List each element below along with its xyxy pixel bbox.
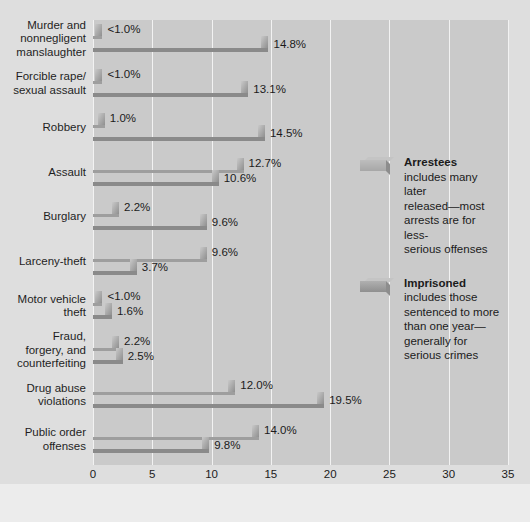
- bar-end-cap: [200, 247, 207, 259]
- bar-arrestees[interactable]: [93, 158, 244, 170]
- bar-shadow: [93, 449, 209, 453]
- category-label: Assault: [0, 166, 86, 180]
- bar-value-label: 14.5%: [270, 127, 303, 139]
- bar-arrestees[interactable]: [93, 247, 207, 259]
- legend-description-line: arrests are for less-: [404, 213, 500, 242]
- bar-end-cap: [200, 214, 207, 226]
- bar-arrestees[interactable]: [93, 291, 102, 303]
- bar-end-cap: [130, 259, 137, 271]
- category-label-line: forgery, and: [0, 344, 86, 358]
- bar-end-cap: [241, 81, 248, 93]
- category-label-line: manslaughter: [0, 46, 86, 60]
- legend-description-line: serious crimes: [404, 348, 500, 363]
- legend-swatch-face: [360, 160, 386, 171]
- chart-row: Drug abuseviolations12.0%19.5%: [0, 380, 530, 425]
- category-label-line: Burglary: [0, 210, 86, 224]
- bar-end-cap: [237, 158, 244, 170]
- bar-imprisoned[interactable]: [93, 81, 248, 93]
- bar-value-label: 2.2%: [124, 335, 150, 347]
- legend-swatch-side: [386, 281, 390, 296]
- bar-shadow: [93, 182, 219, 186]
- bar-imprisoned[interactable]: [93, 125, 265, 137]
- bar-shadow: [93, 137, 265, 141]
- legend-description-line: includes many later: [404, 170, 500, 199]
- bar-arrestees[interactable]: [93, 425, 259, 437]
- bar-value-label: 9.6%: [212, 246, 238, 258]
- bar-value-label: 3.7%: [142, 261, 168, 273]
- legend-swatch-side: [386, 160, 390, 175]
- category-label-line: Motor vehicle: [0, 293, 86, 307]
- chart-row: Murder andnonnegligentmanslaughter<1.0%1…: [0, 24, 530, 69]
- bar-value-label: 12.7%: [249, 157, 282, 169]
- bar-imprisoned[interactable]: [93, 348, 123, 360]
- bar-imprisoned[interactable]: [93, 392, 324, 404]
- bar-imprisoned[interactable]: [93, 170, 219, 182]
- bar-end-cap: [95, 291, 102, 303]
- bar-imprisoned[interactable]: [93, 437, 209, 449]
- legend-description-line: sentenced to more: [404, 305, 500, 320]
- bar-value-label: 2.5%: [128, 350, 154, 362]
- chart-page: Murder andnonnegligentmanslaughter<1.0%1…: [0, 0, 530, 522]
- footer-strip: [0, 484, 530, 522]
- bar-value-label: 2.2%: [124, 201, 150, 213]
- category-label: Robbery: [0, 121, 86, 135]
- chart-legend: Arresteesincludes many laterreleased—mos…: [360, 155, 500, 382]
- bar-end-cap: [261, 36, 268, 48]
- x-tick-35: 35: [502, 468, 515, 480]
- bar-end-cap: [112, 202, 119, 214]
- legend-description-line: generally for: [404, 334, 500, 349]
- category-label-line: counterfeiting: [0, 357, 86, 371]
- bar-value-label: 10.6%: [224, 172, 257, 184]
- bar-shadow: [93, 315, 112, 319]
- category-label-line: Fraud,: [0, 330, 86, 344]
- legend-item-imprisoned[interactable]: Imprisonedincludes thosesentenced to mor…: [360, 276, 500, 363]
- bar-shadow: [93, 226, 207, 230]
- category-label: Fraud,forgery, andcounterfeiting: [0, 330, 86, 371]
- bar-arrestees[interactable]: [93, 336, 119, 348]
- bar-value-label: 14.0%: [264, 424, 297, 436]
- bar-value-label: 13.1%: [253, 83, 286, 95]
- legend-title: Imprisoned: [404, 276, 500, 291]
- bar-imprisoned[interactable]: [93, 259, 137, 271]
- bar-value-label: 1.0%: [110, 112, 136, 124]
- bar-value-label: 12.0%: [240, 379, 273, 391]
- legend-item-arrestees[interactable]: Arresteesincludes many laterreleased—mos…: [360, 155, 500, 257]
- legend-text: Arresteesincludes many laterreleased—mos…: [404, 155, 500, 257]
- chart-row: Forcible rape/sexual assault<1.0%13.1%: [0, 69, 530, 114]
- bar-value-label: <1.0%: [107, 68, 140, 80]
- bar-arrestees[interactable]: [93, 69, 102, 81]
- bar-shadow: [93, 93, 248, 97]
- legend-description-line: released—most: [404, 199, 500, 214]
- bar-arrestees[interactable]: [93, 24, 102, 36]
- x-tick-5: 5: [149, 468, 155, 480]
- bar-shadow: [93, 404, 324, 408]
- bar-imprisoned[interactable]: [93, 36, 268, 48]
- bar-arrestees[interactable]: [93, 113, 105, 125]
- legend-text: Imprisonedincludes thosesentenced to mor…: [404, 276, 500, 363]
- bar-end-cap: [252, 425, 259, 437]
- bar-end-cap: [112, 336, 119, 348]
- category-label: Motor vehicletheft: [0, 293, 86, 320]
- legend-description-line: serious offenses: [404, 242, 500, 257]
- bar-end-cap: [116, 348, 123, 360]
- bar-arrestees[interactable]: [93, 202, 119, 214]
- bar-value-label: 9.6%: [212, 216, 238, 228]
- bar-arrestees[interactable]: [93, 380, 235, 392]
- bar-value-label: <1.0%: [107, 290, 140, 302]
- bar-end-cap: [258, 125, 265, 137]
- category-label-line: Assault: [0, 166, 86, 180]
- bar-imprisoned[interactable]: [93, 303, 112, 315]
- bar-imprisoned[interactable]: [93, 214, 207, 226]
- bar-value-label: 14.8%: [273, 38, 306, 50]
- chart-row: Public orderoffenses14.0%9.8%: [0, 425, 530, 470]
- x-tick-25: 25: [383, 468, 396, 480]
- category-label-line: theft: [0, 306, 86, 320]
- bar-end-cap: [228, 380, 235, 392]
- category-label-line: offenses: [0, 440, 86, 454]
- category-label-line: sexual assault: [0, 84, 86, 98]
- category-label-line: Robbery: [0, 121, 86, 135]
- category-label-line: Murder and: [0, 19, 86, 33]
- bar-shadow: [93, 271, 137, 275]
- bar-shadow: [93, 360, 123, 364]
- category-label-line: Larceny-theft: [0, 255, 86, 269]
